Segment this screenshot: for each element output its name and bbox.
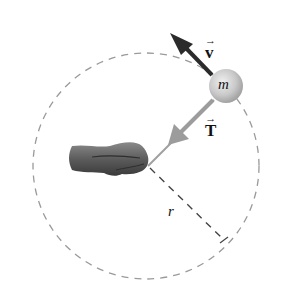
circular-motion-diagram xyxy=(0,0,285,284)
vector-arrow-icon: → xyxy=(205,113,216,124)
radius-end-tick xyxy=(220,237,228,243)
vector-arrow-icon: → xyxy=(205,35,214,46)
tension-label: → T xyxy=(205,122,216,139)
radius-label: r xyxy=(168,204,174,219)
radius-line xyxy=(150,168,224,240)
velocity-label: → v xyxy=(205,44,214,61)
mass-label: m xyxy=(218,77,229,92)
hand-icon xyxy=(69,142,148,176)
